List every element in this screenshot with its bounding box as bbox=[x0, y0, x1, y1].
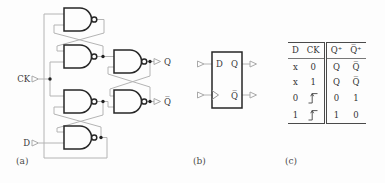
rising-edge-icon bbox=[308, 92, 318, 104]
col-header-qbarnext: Q̅⁺ bbox=[346, 43, 365, 59]
col-header-d: D bbox=[288, 43, 303, 59]
table-cell: x bbox=[288, 59, 303, 75]
col-header-ck: CK bbox=[303, 43, 325, 59]
table-cell: 1 bbox=[288, 106, 303, 124]
nand-gate-1 bbox=[64, 8, 97, 31]
qbar-pin-icon bbox=[154, 99, 161, 105]
qbar-label: Q̅ bbox=[164, 96, 171, 107]
ck-pin-icon bbox=[32, 76, 39, 82]
table-cell: 0 bbox=[346, 106, 365, 124]
table-cell: Q bbox=[325, 59, 346, 75]
symbol-d-pin-icon bbox=[198, 61, 205, 67]
table-cell: Q bbox=[325, 74, 346, 89]
table-cell: 1 bbox=[346, 89, 365, 106]
table-cell bbox=[303, 106, 325, 124]
table-cell: x bbox=[288, 74, 303, 89]
nand-gate-3 bbox=[114, 50, 147, 73]
symbol-q-label: Q bbox=[231, 59, 238, 69]
d-label: D bbox=[23, 138, 30, 148]
figure-d-flip-flop: CK D Q Q̅ D Q Q̅ bbox=[0, 0, 385, 183]
symbol-stubs bbox=[204, 64, 250, 95]
symbol-qbar-pin-icon bbox=[250, 92, 257, 98]
wire-g4-g5 bbox=[97, 102, 114, 108]
table-cell: 1 bbox=[325, 106, 346, 124]
nand-gate-5 bbox=[114, 90, 147, 113]
table-cell: 0 bbox=[303, 59, 325, 75]
table-row: 0 0 1 bbox=[288, 89, 366, 106]
symbol-q-pin-icon bbox=[250, 61, 257, 67]
d-pin-icon bbox=[32, 140, 39, 146]
table-cell: Q̅ bbox=[346, 74, 365, 89]
junction-dot bbox=[101, 100, 104, 103]
rising-edge-icon bbox=[308, 109, 318, 121]
nand-gate-6 bbox=[64, 126, 97, 149]
table-cell: 0 bbox=[288, 89, 303, 106]
junction-dot bbox=[48, 77, 51, 80]
caption-c: (c) bbox=[285, 156, 297, 166]
caption-b: (b) bbox=[193, 156, 206, 166]
dff-block-symbol: D Q Q̅ bbox=[198, 52, 257, 108]
q-label: Q bbox=[164, 57, 171, 67]
junction-dot bbox=[148, 60, 151, 63]
table-row: x 1 Q Q̅ bbox=[288, 74, 366, 89]
nand-gate-2 bbox=[64, 45, 97, 68]
table-header-row: D CK Q⁺ Q̅⁺ bbox=[288, 43, 366, 59]
ck-label: CK bbox=[17, 74, 31, 84]
table-cell bbox=[303, 89, 325, 106]
symbol-d-label: D bbox=[216, 59, 223, 69]
table-cell: 0 bbox=[325, 89, 346, 106]
table-cell: 1 bbox=[303, 74, 325, 89]
junction-dot bbox=[148, 100, 151, 103]
caption-a: (a) bbox=[16, 156, 28, 166]
table-row: x 0 Q Q̅ bbox=[288, 59, 366, 75]
q-pin-icon bbox=[154, 59, 161, 65]
symbol-qbar-label: Q̅ bbox=[231, 90, 238, 101]
table-row: 1 1 0 bbox=[288, 106, 366, 124]
characteristic-table: D CK Q⁺ Q̅⁺ x 0 Q Q̅ x 1 Q Q̅ 0 bbox=[288, 42, 366, 124]
symbol-clk-pin-icon bbox=[198, 92, 205, 98]
nand-gate-4 bbox=[64, 90, 97, 113]
edge-trigger-triangle-icon bbox=[212, 91, 219, 100]
dff-gate-schematic: CK D Q Q̅ D Q Q̅ bbox=[0, 0, 280, 183]
junction-dot bbox=[99, 136, 102, 139]
col-header-qnext: Q⁺ bbox=[325, 43, 346, 59]
junction-dot bbox=[101, 55, 104, 58]
table-cell: Q̅ bbox=[346, 59, 365, 75]
